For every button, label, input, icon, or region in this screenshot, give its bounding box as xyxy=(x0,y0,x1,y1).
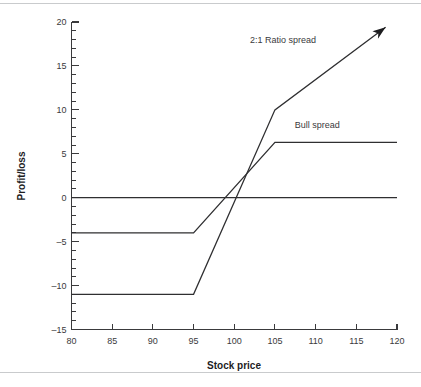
series-annotations: Bull spread2:1 Ratio spread xyxy=(250,35,340,130)
y-tick-label: –10 xyxy=(51,281,66,291)
x-axis-ticks xyxy=(72,324,398,330)
series-line-2-1-ratio-spread xyxy=(72,27,386,294)
x-tick-label: 105 xyxy=(267,336,282,346)
x-axis-tick-labels: 80859095100105110115120 xyxy=(66,336,404,346)
x-tick-label: 80 xyxy=(66,336,76,346)
y-tick-label: –5 xyxy=(56,237,66,247)
annotation-bull-spread: Bull spread xyxy=(295,120,340,130)
annotation-2-1-ratio-spread: 2:1 Ratio spread xyxy=(250,35,316,45)
y-tick-label: 5 xyxy=(61,149,66,159)
series-paths xyxy=(72,27,398,294)
y-tick-label: 10 xyxy=(56,105,66,115)
x-tick-label: 100 xyxy=(227,336,242,346)
series-line-bull-spread xyxy=(72,142,398,233)
y-tick-label: 0 xyxy=(61,193,66,203)
top-divider-rule xyxy=(0,3,421,4)
chart-figure: –15–10–505101520 80859095100105110115120… xyxy=(0,0,421,387)
y-axis-minor-ticks xyxy=(72,31,76,321)
x-tick-label: 85 xyxy=(107,336,117,346)
x-axis-title: Stock price xyxy=(207,360,261,371)
x-tick-label: 120 xyxy=(389,336,404,346)
y-tick-label: –15 xyxy=(51,325,66,335)
y-tick-label: 20 xyxy=(56,17,66,27)
y-axis-title: Profit/loss xyxy=(16,151,27,200)
y-tick-label: 15 xyxy=(56,61,66,71)
x-tick-label: 95 xyxy=(189,336,199,346)
x-tick-label: 90 xyxy=(148,336,158,346)
arrowhead-2-1-ratio-spread xyxy=(372,27,385,38)
x-tick-label: 110 xyxy=(308,336,322,346)
y-axis-tick-labels: –15–10–505101520 xyxy=(51,17,66,335)
x-tick-label: 115 xyxy=(349,336,363,346)
profit-loss-line-chart: –15–10–505101520 80859095100105110115120… xyxy=(0,0,421,387)
series-arrowheads xyxy=(372,27,385,38)
bottom-divider-rule xyxy=(0,372,421,373)
y-axis-ticks xyxy=(72,22,79,330)
